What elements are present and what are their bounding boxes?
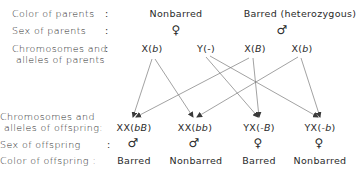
color-of-parents-label: Color of parents (12, 9, 95, 19)
parent-chromosome-2: X(B) (244, 44, 266, 54)
colon: : (105, 44, 108, 54)
parent-chromosomes-label-line2: alleles of parents (16, 55, 105, 65)
offspring-chromosomes-label-line2: alleles of offspring: (4, 123, 103, 133)
arrow-xb-father-to-yxb (301, 58, 320, 117)
arrow-xb-mother-to-xxbB (133, 59, 152, 117)
arrow-y-mother-to-yxB (206, 57, 258, 117)
offspring-color-1: Nonbarred (170, 156, 223, 166)
arrow-y-mother-to-yxb (210, 56, 318, 117)
parent-chromosome-1: Y(-) (197, 44, 215, 54)
female-symbol-icon: ♀ (315, 137, 324, 149)
offspring-chromosome-1: XX(bb) (178, 123, 212, 133)
colon: : (105, 9, 108, 19)
sex-of-parents-label: Sex of parents (12, 26, 86, 36)
offspring-chromosome-2: YX(-B) (243, 123, 274, 133)
female-symbol-icon: ♀ (254, 137, 263, 149)
female-parent-color: Nonbarred (150, 9, 203, 19)
female-symbol-icon: ♀ (172, 24, 181, 36)
color-of-offspring-label: Color of offspring : (0, 156, 96, 166)
offspring-chromosome-3: YX(-b) (305, 123, 336, 133)
male-parent-color: Barred (heterozygous) (244, 9, 357, 19)
male-symbol-icon: ♂ (128, 137, 139, 149)
male-symbol-icon: ♂ (189, 137, 200, 149)
offspring-chromosome-0: XX(bB) (117, 123, 152, 133)
arrow-xB-father-to-yxB (253, 58, 259, 117)
parent-chromosome-3: X(b) (291, 44, 312, 54)
colon: : (105, 26, 108, 36)
arrow-xb-father-to-xxbb (197, 57, 298, 117)
parent-chromosome-0: X(b) (141, 44, 162, 54)
sex-of-offspring-label: Sex of offspring (0, 140, 81, 150)
arrow-xb-mother-to-xxbb (155, 59, 193, 117)
offspring-color-3: Nonbarred (294, 156, 347, 166)
offspring-color-0: Barred (117, 156, 150, 166)
offspring-chromosomes-label-line1: Chromosomes and (0, 112, 95, 122)
offspring-color-2: Barred (242, 156, 275, 166)
parent-chromosomes-label-line1: Chromosomes and (12, 44, 107, 54)
male-symbol-icon: ♂ (277, 24, 288, 36)
colon: : (107, 140, 110, 150)
